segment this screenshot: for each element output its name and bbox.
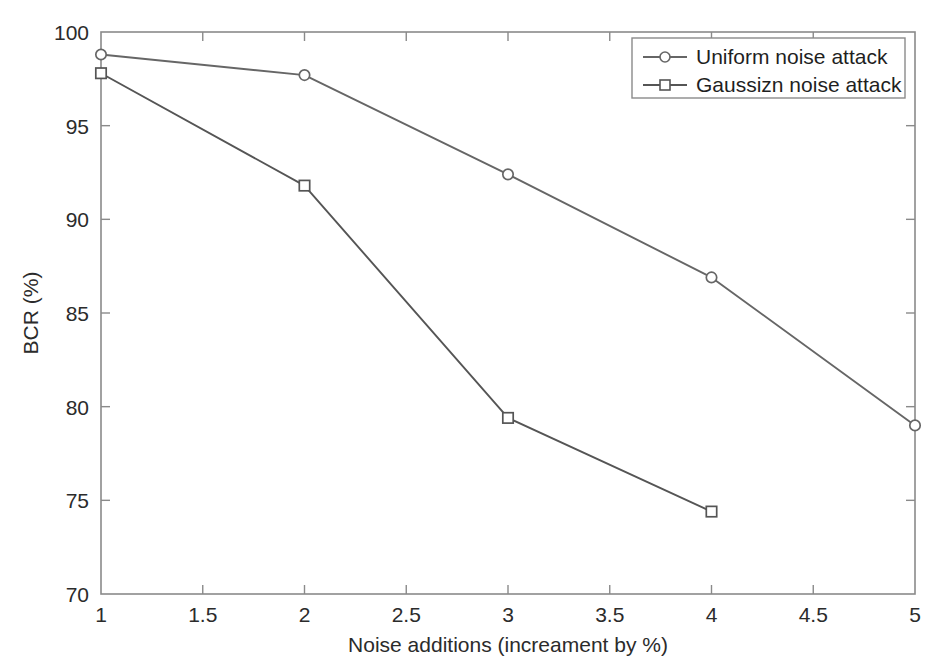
- x-tick-label: 3.5: [595, 603, 624, 626]
- data-point-square: [96, 68, 106, 78]
- data-point-circle: [299, 70, 309, 80]
- x-tick-label: 4.5: [799, 603, 828, 626]
- chart-figure: 11.522.533.544.55 707580859095100 Noise …: [0, 0, 950, 672]
- data-point-circle: [706, 272, 716, 282]
- y-tick-label: 75: [66, 489, 89, 512]
- x-tick-label: 1: [95, 603, 107, 626]
- y-axis-label: BCR (%): [19, 272, 42, 355]
- x-tick-label: 2: [299, 603, 311, 626]
- legend-label-gaussian: Gaussizn noise attack: [696, 73, 902, 96]
- data-point-circle: [96, 49, 106, 59]
- y-tick-label: 85: [66, 302, 89, 325]
- y-tick-label: 70: [66, 583, 89, 606]
- x-tick-label: 1.5: [188, 603, 217, 626]
- x-tick-label: 2.5: [392, 603, 421, 626]
- y-tick-label: 100: [54, 21, 89, 44]
- y-tick-label: 80: [66, 396, 89, 419]
- y-tick-label: 90: [66, 208, 89, 231]
- chart-background: [0, 0, 950, 672]
- x-tick-label: 4: [706, 603, 718, 626]
- x-axis-label: Noise additions (increament by %): [348, 633, 668, 656]
- chart-legend: Uniform noise attack Gaussizn noise atta…: [632, 38, 905, 98]
- x-tick-label: 3: [502, 603, 514, 626]
- x-tick-label: 5: [909, 603, 921, 626]
- y-tick-label: 95: [66, 115, 89, 138]
- data-point-circle: [503, 169, 513, 179]
- square-marker-icon: [660, 80, 670, 90]
- data-point-square: [299, 180, 309, 190]
- circle-marker-icon: [660, 52, 670, 62]
- line-chart: 11.522.533.544.55 707580859095100 Noise …: [0, 0, 950, 672]
- data-point-square: [706, 506, 716, 516]
- data-point-square: [503, 413, 513, 423]
- legend-label-uniform: Uniform noise attack: [696, 45, 888, 68]
- data-point-circle: [910, 420, 920, 430]
